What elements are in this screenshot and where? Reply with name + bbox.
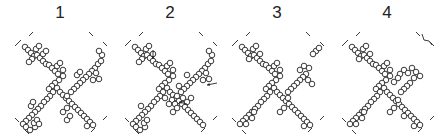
particle bbox=[96, 48, 102, 54]
particle bbox=[395, 75, 401, 81]
corner-tick bbox=[125, 40, 131, 46]
corner-tick bbox=[342, 40, 348, 46]
particle bbox=[237, 121, 243, 127]
panel-1: 1 bbox=[5, 0, 115, 139]
corner-tick bbox=[342, 118, 346, 122]
particle bbox=[90, 122, 96, 128]
particle bbox=[306, 65, 312, 71]
particle bbox=[277, 109, 283, 115]
particle bbox=[361, 109, 367, 115]
corner-tick bbox=[308, 128, 312, 132]
aggregate-diagram bbox=[115, 0, 225, 139]
particle bbox=[347, 121, 353, 127]
particle bbox=[307, 122, 313, 128]
particle bbox=[30, 99, 36, 105]
corner-tick bbox=[213, 42, 217, 46]
corner-tick bbox=[103, 116, 107, 120]
particle bbox=[401, 113, 407, 119]
particle bbox=[208, 58, 214, 64]
corner-tick bbox=[356, 32, 360, 36]
corner-tick bbox=[246, 32, 250, 36]
particle bbox=[200, 77, 206, 83]
corner-tick bbox=[352, 130, 356, 134]
particle bbox=[353, 121, 359, 127]
particle bbox=[417, 122, 423, 128]
particle bbox=[285, 89, 291, 95]
particle bbox=[356, 56, 362, 62]
particle bbox=[246, 56, 252, 62]
corner-tick bbox=[232, 118, 236, 122]
corner-tick bbox=[125, 118, 129, 122]
particle bbox=[60, 109, 66, 115]
particle bbox=[77, 69, 83, 75]
particle bbox=[405, 70, 411, 76]
particle bbox=[363, 43, 369, 49]
particle bbox=[64, 93, 70, 99]
particle bbox=[184, 72, 190, 78]
particle bbox=[249, 115, 255, 121]
particle bbox=[170, 109, 176, 115]
particle bbox=[144, 117, 150, 123]
particle bbox=[417, 73, 423, 79]
corner-tick bbox=[29, 32, 33, 36]
corner-tick bbox=[242, 130, 246, 134]
particle bbox=[367, 51, 373, 57]
corner-tick bbox=[15, 118, 19, 122]
particle bbox=[166, 101, 172, 107]
particle bbox=[251, 109, 257, 115]
particle bbox=[301, 123, 307, 129]
corner-tick bbox=[103, 42, 107, 46]
corner-tick bbox=[306, 32, 310, 36]
particle bbox=[398, 89, 404, 95]
particle bbox=[316, 45, 322, 51]
particle bbox=[253, 43, 259, 49]
particle bbox=[310, 51, 316, 57]
particle bbox=[274, 60, 280, 66]
corner-tick bbox=[199, 32, 203, 36]
particle bbox=[188, 95, 194, 101]
corner-tick bbox=[91, 128, 95, 132]
panel-4: 4 bbox=[332, 0, 442, 139]
particle bbox=[138, 103, 144, 109]
particle bbox=[203, 70, 209, 76]
corner-tick bbox=[139, 32, 143, 36]
panel-3: 3 bbox=[222, 0, 332, 139]
particle bbox=[93, 70, 99, 76]
particle bbox=[96, 76, 102, 82]
particle bbox=[384, 60, 390, 66]
particle bbox=[67, 113, 73, 119]
particle bbox=[26, 59, 32, 65]
aggregate-diagram bbox=[332, 0, 442, 139]
particle bbox=[162, 95, 168, 101]
corner-tick bbox=[320, 116, 324, 120]
particle bbox=[257, 51, 263, 57]
aggregate-diagram bbox=[222, 0, 332, 139]
aggregate-diagram bbox=[5, 0, 115, 139]
particle bbox=[200, 122, 206, 128]
particle bbox=[36, 121, 42, 127]
particle bbox=[98, 58, 104, 64]
detached-fragment-icon bbox=[422, 34, 432, 45]
particle bbox=[146, 43, 152, 49]
particle bbox=[174, 93, 180, 99]
particle bbox=[43, 48, 49, 54]
panel-2: 2 bbox=[115, 0, 225, 139]
particle bbox=[170, 67, 176, 73]
corner-tick bbox=[418, 128, 422, 132]
particle bbox=[395, 97, 401, 103]
particle bbox=[411, 75, 417, 81]
particle bbox=[243, 121, 249, 127]
particle bbox=[167, 60, 173, 66]
particle bbox=[36, 43, 42, 49]
particle bbox=[57, 60, 63, 66]
particle bbox=[411, 123, 417, 129]
particle bbox=[206, 76, 212, 82]
particle bbox=[309, 81, 315, 87]
particle bbox=[176, 83, 182, 89]
corner-tick bbox=[416, 32, 420, 36]
particle bbox=[359, 115, 365, 121]
particle bbox=[60, 67, 66, 73]
corner-tick bbox=[15, 40, 21, 46]
corner-tick bbox=[232, 40, 238, 46]
particle bbox=[285, 95, 291, 101]
